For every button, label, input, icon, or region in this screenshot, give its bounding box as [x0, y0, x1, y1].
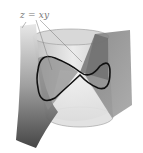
surface-equation-label: z = xy — [20, 10, 49, 20]
saddle-cylinder-diagram: z = xy — [0, 0, 143, 153]
diagram-canvas — [0, 0, 143, 153]
